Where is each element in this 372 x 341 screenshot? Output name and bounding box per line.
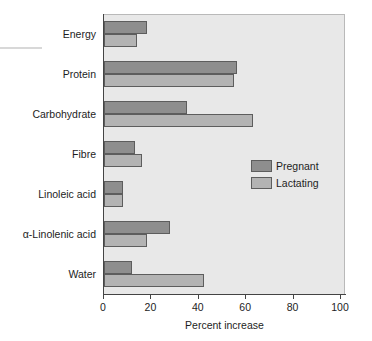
x-tick-label: 80 <box>273 301 313 313</box>
x-tick-mark <box>293 294 294 299</box>
category-label: Water <box>0 268 96 280</box>
bar-lactating <box>104 74 234 87</box>
bar-lactating <box>104 274 204 287</box>
category-label: Protein <box>0 68 96 80</box>
category-label: Linoleic acid <box>0 188 96 200</box>
bar-pregnant <box>104 221 170 234</box>
bar-pregnant <box>104 261 132 274</box>
x-tick-mark <box>150 294 151 299</box>
legend-label-lactating: Lactating <box>276 176 319 190</box>
x-tick-label: 40 <box>178 301 218 313</box>
legend-label-pregnant: Pregnant <box>276 159 319 173</box>
category-label: Energy <box>0 28 96 40</box>
x-tick-label: 20 <box>130 301 170 313</box>
bar-lactating <box>104 34 137 47</box>
bar-lactating <box>104 154 142 167</box>
bar-pregnant <box>104 181 123 194</box>
x-axis-line <box>103 294 346 295</box>
x-axis-title: Percent increase <box>103 319 346 331</box>
bar-pregnant <box>104 141 135 154</box>
bar-pregnant <box>104 101 187 114</box>
x-tick-mark <box>103 294 104 299</box>
bar-lactating <box>104 114 253 127</box>
category-label: α-Linolenic acid <box>0 228 96 240</box>
bar-chart-figure: EnergyProteinCarbohydrateFibreLinoleic a… <box>0 0 372 341</box>
category-label: Carbohydrate <box>0 108 96 120</box>
x-tick-mark <box>340 294 341 299</box>
category-label: Fibre <box>0 148 96 160</box>
bar-pregnant <box>104 21 147 34</box>
scan-artifact-line <box>0 47 42 49</box>
x-tick-mark <box>245 294 246 299</box>
legend-swatch-pregnant <box>251 160 272 172</box>
bar-lactating <box>104 194 123 207</box>
bar-lactating <box>104 234 147 247</box>
x-tick-label: 60 <box>225 301 265 313</box>
bar-pregnant <box>104 61 237 74</box>
legend-swatch-lactating <box>251 177 272 189</box>
x-tick-mark <box>198 294 199 299</box>
x-tick-label: 0 <box>83 301 123 313</box>
x-tick-label: 100 <box>320 301 360 313</box>
